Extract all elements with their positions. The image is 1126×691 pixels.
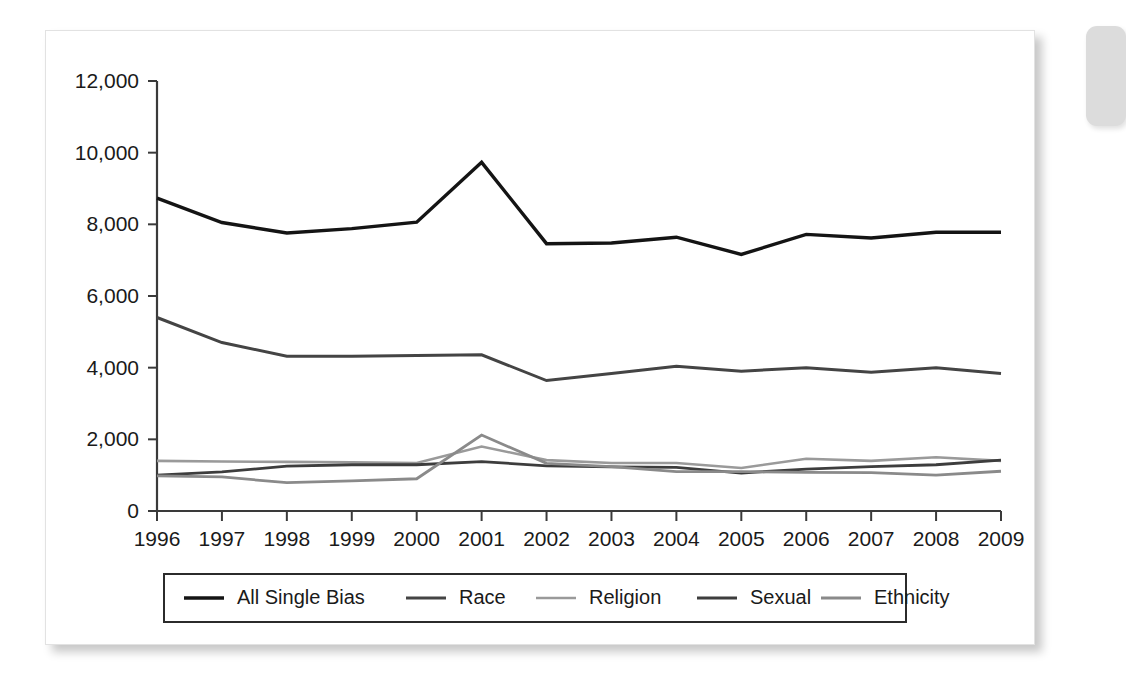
y-axis: 02,0004,0006,0008,00010,00012,000 <box>75 69 157 522</box>
x-tick-label: 1998 <box>263 527 310 550</box>
x-tick-label: 2009 <box>978 527 1025 550</box>
series-line-all-single-bias <box>157 162 1001 254</box>
x-tick-label: 2004 <box>653 527 700 550</box>
line-chart: 02,0004,0006,0008,00010,00012,000 199619… <box>46 31 1034 644</box>
x-tick-label: 1996 <box>134 527 181 550</box>
y-tick-label: 8,000 <box>86 212 139 235</box>
y-tick-label: 12,000 <box>75 69 139 92</box>
y-tick-label: 6,000 <box>86 284 139 307</box>
legend-label-all-single-bias: All Single Bias <box>237 586 365 608</box>
series-line-ethnicity <box>157 435 1001 483</box>
y-tick-label: 2,000 <box>86 427 139 450</box>
series-line-race <box>157 318 1001 381</box>
series-lines <box>157 162 1001 482</box>
legend-label-sexual: Sexual <box>750 586 811 608</box>
x-tick-label: 1997 <box>199 527 246 550</box>
y-tick-label: 0 <box>127 499 139 522</box>
legend-label-ethnicity: Ethnicity <box>874 586 950 608</box>
x-tick-label: 2001 <box>458 527 505 550</box>
x-tick-label: 2006 <box>783 527 830 550</box>
side-tab-decoration <box>1086 26 1126 126</box>
figure-card: 02,0004,0006,0008,00010,00012,000 199619… <box>45 30 1035 645</box>
y-tick-label: 4,000 <box>86 356 139 379</box>
x-tick-label: 2008 <box>913 527 960 550</box>
legend-label-race: Race <box>459 586 506 608</box>
chart-legend: All Single BiasRaceReligionSexualEthnici… <box>164 574 950 622</box>
x-tick-label: 2003 <box>588 527 635 550</box>
x-tick-label: 1999 <box>328 527 375 550</box>
x-tick-label: 2005 <box>718 527 765 550</box>
y-tick-label: 10,000 <box>75 141 139 164</box>
x-tick-label: 2002 <box>523 527 570 550</box>
legend-label-religion: Religion <box>589 586 661 608</box>
x-axis: 1996199719981999200020012002200320042005… <box>134 511 1025 550</box>
x-tick-label: 2007 <box>848 527 895 550</box>
x-tick-label: 2000 <box>393 527 440 550</box>
